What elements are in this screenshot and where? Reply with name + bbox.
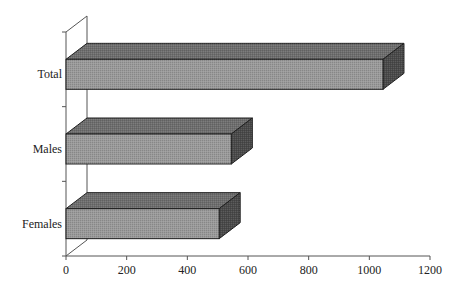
bar-total bbox=[66, 43, 404, 89]
x-tick-label: 800 bbox=[300, 263, 318, 277]
x-tick-label: 0 bbox=[63, 263, 69, 277]
x-tick-label: 1200 bbox=[418, 263, 442, 277]
category-label-females: Females bbox=[22, 217, 62, 231]
x-tick-label: 200 bbox=[118, 263, 136, 277]
bar-females bbox=[66, 193, 240, 239]
category-label-males: Males bbox=[33, 142, 63, 156]
x-tick-label: 600 bbox=[239, 263, 257, 277]
floor-depth-line bbox=[66, 240, 87, 256]
category-labels: TotalMalesFemales bbox=[22, 67, 63, 230]
bars-group bbox=[66, 43, 404, 238]
x-tick-label: 1000 bbox=[357, 263, 381, 277]
bar-chart: TotalMalesFemales 020040060080010001200 bbox=[0, 0, 462, 293]
category-label-total: Total bbox=[38, 67, 63, 81]
x-tick-label: 400 bbox=[178, 263, 196, 277]
bar-males bbox=[66, 118, 252, 164]
top-depth-line bbox=[66, 16, 87, 32]
x-axis-tick-labels: 020040060080010001200 bbox=[63, 263, 442, 277]
